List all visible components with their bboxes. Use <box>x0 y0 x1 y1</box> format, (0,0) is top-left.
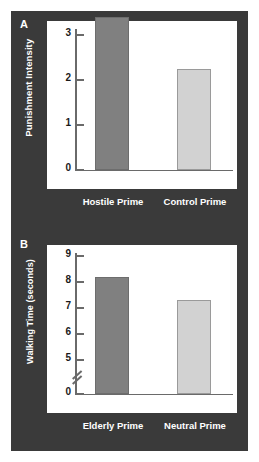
panel-b-tick-7: 7 <box>75 307 84 309</box>
panel-a-plot-area: 0 1 2 3 <box>47 21 237 189</box>
panel-a-x-axis-line <box>75 170 233 172</box>
panel-b-category-label-2: Neutral Prime <box>150 421 240 431</box>
panel-a-y-axis-line <box>75 29 77 171</box>
panel-a-category-label-1: Hostile Prime <box>68 197 158 207</box>
figure-root: A Punishment Intensity 0 1 2 3 <box>0 0 259 462</box>
panel-b-category-label-1: Elderly Prime <box>68 421 158 431</box>
panel-a: A Punishment Intensity 0 1 2 3 <box>11 11 248 231</box>
panel-a-tick-3: 3 <box>75 34 84 36</box>
panel-b-tick-0: 0 <box>75 393 84 395</box>
panel-b-bar-neutral-prime <box>177 300 211 394</box>
panel-b-plot-area: 0 5 6 7 8 9 <box>47 245 237 413</box>
panel-a-category-labels: Hostile Prime Control Prime <box>47 197 237 213</box>
panel-a-category-label-2: Control Prime <box>150 197 240 207</box>
panel-b-tick-6: 6 <box>75 333 84 335</box>
panel-b: B Walking Time (seconds) 0 5 6 <box>11 231 248 451</box>
figure-board: A Punishment Intensity 0 1 2 3 <box>11 11 248 451</box>
panel-b-tick-8: 8 <box>75 281 84 283</box>
panel-b-tick-9: 9 <box>75 255 84 257</box>
panel-a-bar-control-prime <box>177 69 211 170</box>
panel-b-axis-break-icon <box>71 371 83 383</box>
panel-b-y-axis-title: Walking Time (seconds) <box>26 237 35 387</box>
panel-a-tick-0: 0 <box>75 169 84 171</box>
panel-b-bar-elderly-prime <box>95 277 129 394</box>
panel-a-y-axis-title: Punishment Intensity <box>24 18 34 158</box>
panel-b-category-labels: Elderly Prime Neutral Prime <box>47 421 237 437</box>
panel-a-tick-1: 1 <box>75 124 84 126</box>
panel-b-tick-5: 5 <box>75 359 84 361</box>
panel-a-bar-hostile-prime <box>95 17 129 170</box>
panel-b-x-axis-line <box>75 394 233 396</box>
panel-a-tick-2: 2 <box>75 79 84 81</box>
